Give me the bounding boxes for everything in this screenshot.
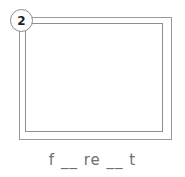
item-number-label: 2: [17, 15, 25, 27]
picture-frame-blank-canvas: [26, 24, 162, 131]
item-number-badge: 2: [10, 9, 33, 32]
worksheet-item: 2 f __ re __ t: [0, 0, 185, 177]
fill-in-the-blank-word: f __ re __ t: [0, 150, 185, 170]
